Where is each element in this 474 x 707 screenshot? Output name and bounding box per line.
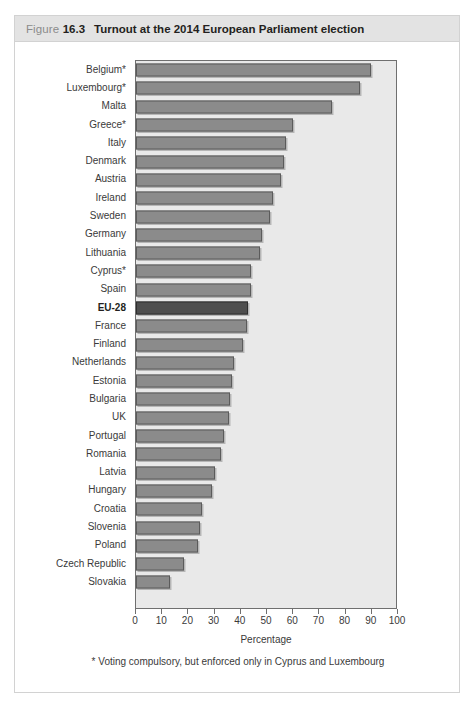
category-label: Portugal bbox=[15, 426, 132, 444]
axis-tick-label: 90 bbox=[365, 615, 376, 626]
bar bbox=[136, 265, 251, 278]
bar-row bbox=[136, 134, 396, 152]
axis-tick bbox=[318, 609, 319, 614]
axis-tick bbox=[371, 609, 372, 614]
category-label: Belgium* bbox=[15, 60, 132, 78]
bar bbox=[136, 137, 286, 150]
bar bbox=[136, 539, 198, 552]
category-label: Finland bbox=[15, 334, 132, 352]
bar-series bbox=[136, 61, 396, 608]
axis-tick bbox=[397, 609, 398, 614]
bar-row bbox=[136, 555, 396, 573]
bar-row bbox=[136, 354, 396, 372]
bar bbox=[136, 356, 234, 369]
category-label: Italy bbox=[15, 133, 132, 151]
bar-row bbox=[136, 244, 396, 262]
axis-tick-label: 10 bbox=[156, 615, 167, 626]
bar bbox=[136, 283, 251, 296]
category-label: Luxembourg* bbox=[15, 78, 132, 96]
category-label: Cyprus* bbox=[15, 261, 132, 279]
category-label: Czech Republic bbox=[15, 554, 132, 572]
category-label: Netherlands bbox=[15, 353, 132, 371]
bar bbox=[136, 82, 360, 95]
bar bbox=[136, 338, 243, 351]
category-label: EU-28 bbox=[15, 298, 132, 316]
bar bbox=[136, 503, 202, 516]
x-axis-title: Percentage bbox=[135, 634, 397, 645]
category-label: Sweden bbox=[15, 206, 132, 224]
figure-title: Turnout at the 2014 European Parliament … bbox=[94, 23, 364, 35]
bar bbox=[136, 155, 284, 168]
category-label: Slovakia bbox=[15, 572, 132, 590]
bar bbox=[136, 192, 273, 205]
bar-row bbox=[136, 537, 396, 555]
figure-footnote: * Voting compulsory, but enforced only i… bbox=[15, 656, 461, 667]
bar-row bbox=[136, 464, 396, 482]
bar-row bbox=[136, 281, 396, 299]
category-label: Romania bbox=[15, 444, 132, 462]
bar bbox=[136, 393, 230, 406]
axis-tick bbox=[345, 609, 346, 614]
category-label: Poland bbox=[15, 536, 132, 554]
x-axis-tick-labels: 0102030405060708090100 bbox=[15, 615, 461, 631]
category-label: Slovenia bbox=[15, 517, 132, 535]
bar-row bbox=[136, 372, 396, 390]
bar-row bbox=[136, 207, 396, 225]
category-label: Ireland bbox=[15, 188, 132, 206]
bar-row bbox=[136, 573, 396, 591]
bar bbox=[136, 430, 224, 443]
bar-row bbox=[136, 427, 396, 445]
bar bbox=[136, 521, 200, 534]
plot-frame bbox=[135, 60, 397, 609]
bar-row bbox=[136, 299, 396, 317]
bar bbox=[136, 100, 332, 113]
bar bbox=[136, 119, 293, 132]
bar-row bbox=[136, 518, 396, 536]
axis-tick-label: 50 bbox=[260, 615, 271, 626]
bar-row bbox=[136, 61, 396, 79]
axis-tick bbox=[266, 609, 267, 614]
bar bbox=[136, 558, 184, 571]
bar bbox=[136, 302, 248, 315]
category-label: Croatia bbox=[15, 499, 132, 517]
axis-tick-label: 40 bbox=[234, 615, 245, 626]
bar bbox=[136, 375, 232, 388]
axis-tick bbox=[161, 609, 162, 614]
category-label: Lithuania bbox=[15, 243, 132, 261]
bar-row bbox=[136, 335, 396, 353]
axis-tick-label: 0 bbox=[132, 615, 138, 626]
category-label: Estonia bbox=[15, 371, 132, 389]
category-label: Austria bbox=[15, 170, 132, 188]
category-label: Greece* bbox=[15, 115, 132, 133]
axis-tick-label: 30 bbox=[208, 615, 219, 626]
axis-tick bbox=[240, 609, 241, 614]
bar-row bbox=[136, 409, 396, 427]
bar-row bbox=[136, 189, 396, 207]
bar bbox=[136, 576, 170, 589]
bar bbox=[136, 228, 262, 241]
bar-row bbox=[136, 317, 396, 335]
chart-area: Belgium*Luxembourg*MaltaGreece*ItalyDenm… bbox=[15, 42, 461, 693]
axis-tick bbox=[214, 609, 215, 614]
bar-row bbox=[136, 98, 396, 116]
bar-row bbox=[136, 171, 396, 189]
axis-tick bbox=[292, 609, 293, 614]
bar-row bbox=[136, 390, 396, 408]
bar bbox=[136, 466, 215, 479]
category-label: Spain bbox=[15, 280, 132, 298]
axis-tick-label: 60 bbox=[287, 615, 298, 626]
bar bbox=[136, 320, 247, 333]
bar bbox=[136, 484, 212, 497]
axis-tick-label: 100 bbox=[389, 615, 406, 626]
figure-number: 16.3 bbox=[63, 23, 85, 35]
bar-row bbox=[136, 152, 396, 170]
figure-label: Figure bbox=[26, 23, 59, 35]
axis-tick-label: 70 bbox=[313, 615, 324, 626]
axis-tick-label: 20 bbox=[182, 615, 193, 626]
bar bbox=[136, 411, 229, 424]
bar bbox=[136, 448, 221, 461]
bar-row bbox=[136, 445, 396, 463]
axis-tick bbox=[135, 609, 136, 614]
figure-container: Figure 16.3 Turnout at the 2014 European… bbox=[14, 15, 460, 693]
bar bbox=[136, 210, 270, 223]
